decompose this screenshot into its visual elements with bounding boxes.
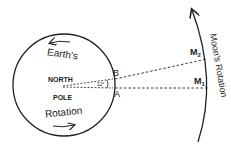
earth-bottom-label: Rotation	[44, 105, 82, 120]
angle-label: 12°	[97, 81, 105, 87]
earth-rotation-arrow-bottom-icon	[53, 125, 74, 127]
diagram-canvas: Earth's Rotation NORTH POLE 12° B A M2 M…	[0, 0, 231, 151]
north-label: NORTH	[48, 76, 73, 83]
point-a-label: A	[114, 89, 120, 99]
m2-label: M2	[190, 47, 202, 58]
point-b-label: B	[113, 68, 119, 78]
earth-rotation-arrow-top-icon	[50, 41, 70, 43]
pole-label: POLE	[53, 94, 72, 101]
m1-label: M1	[194, 76, 206, 87]
earth-top-label: Earth's	[47, 46, 79, 61]
pole-to-a-line	[63, 87, 113, 88]
moon-rotation-label: Moon's Rotation	[208, 33, 229, 99]
angle-arc	[107, 80, 108, 88]
